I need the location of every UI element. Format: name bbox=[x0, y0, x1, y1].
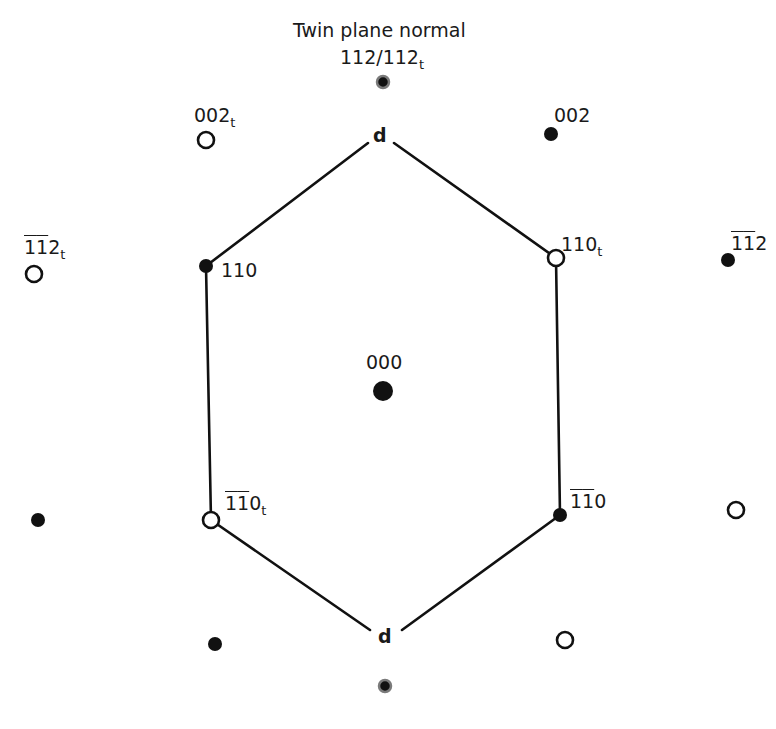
filled-spot-icon bbox=[553, 508, 567, 522]
hex-edge bbox=[556, 258, 560, 515]
diffraction-spots bbox=[26, 76, 744, 692]
hex-edge bbox=[211, 520, 370, 630]
label-sub: t bbox=[60, 247, 65, 262]
spot-label-000: 000 bbox=[366, 353, 402, 372]
ringed-spot-icon bbox=[377, 76, 389, 88]
label-rest: 2 bbox=[48, 236, 60, 258]
twin-plane-normal-title: Twin plane normal bbox=[293, 21, 466, 40]
hex-edge bbox=[402, 515, 560, 630]
spot-label-002t: 002t bbox=[194, 106, 235, 125]
filled-spot-icon bbox=[31, 513, 45, 527]
spot-label-bar1bar12: 112 bbox=[731, 234, 767, 253]
label-rest: 0 bbox=[249, 492, 261, 514]
vertex-label-d-top: d bbox=[373, 126, 387, 145]
label-rest: 0 bbox=[594, 490, 606, 512]
open-spot-icon bbox=[728, 502, 744, 518]
spot-label-110t: 110t bbox=[561, 235, 602, 254]
twin-normal-index-label: 112/112t bbox=[340, 48, 424, 67]
label-main: 110 bbox=[561, 233, 597, 255]
spot-label-002: 002 bbox=[554, 106, 590, 125]
hex-edge bbox=[394, 143, 556, 258]
filled-spot-icon bbox=[373, 381, 393, 401]
spot-label-110: 110 bbox=[221, 261, 257, 280]
label-sub: t bbox=[261, 503, 266, 518]
filled-spot-icon bbox=[199, 259, 213, 273]
filled-spot-icon bbox=[208, 637, 222, 651]
label-bar-digit: 1 bbox=[743, 232, 755, 254]
open-spot-icon bbox=[198, 132, 214, 148]
label-main: 002 bbox=[194, 104, 230, 126]
vertex-label-d-bottom: d bbox=[378, 627, 392, 646]
label-sub: t bbox=[597, 244, 602, 259]
open-spot-icon bbox=[26, 266, 42, 282]
label-bar-digit: 1 bbox=[731, 232, 743, 254]
label-bar-digit: 1 bbox=[36, 236, 48, 258]
twin-normal-index-sub: t bbox=[419, 57, 424, 72]
spot-label-bar1bar10t: 110t bbox=[225, 494, 266, 513]
spot-label-bar1bar10: 110 bbox=[570, 492, 606, 511]
hex-edge bbox=[206, 266, 211, 520]
filled-spot-icon bbox=[544, 127, 558, 141]
ringed-spot-icon bbox=[379, 680, 391, 692]
label-bar-digit: 1 bbox=[570, 490, 582, 512]
label-bar-digit: 1 bbox=[225, 492, 237, 514]
spot-label-bar1bar12t: 112t bbox=[24, 238, 65, 257]
label-bar-digit: 1 bbox=[24, 236, 36, 258]
open-spot-icon bbox=[557, 632, 573, 648]
label-sub: t bbox=[230, 115, 235, 130]
open-spot-icon bbox=[203, 512, 219, 528]
label-bar-digit: 1 bbox=[237, 492, 249, 514]
twin-normal-index-main: 112/112 bbox=[340, 46, 419, 68]
label-rest: 2 bbox=[755, 232, 767, 254]
hex-edge bbox=[206, 143, 368, 266]
filled-spot-icon bbox=[721, 253, 735, 267]
label-bar-digit: 1 bbox=[582, 490, 594, 512]
